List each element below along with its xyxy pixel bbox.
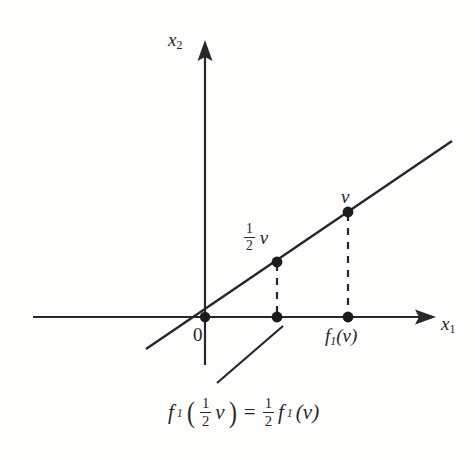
point-v [343, 207, 354, 218]
point-origin [200, 312, 210, 322]
equation-lhs-function: f [168, 402, 174, 423]
point-projection-half-v [272, 312, 283, 323]
equation-lhs-vector: v [215, 402, 224, 423]
leader-line-group [217, 326, 283, 383]
point-label-v: v [341, 187, 349, 206]
open-paren: ( [187, 397, 195, 427]
equation-rhs-function: f [278, 402, 284, 423]
point-label-half-v: 1 2 v [243, 222, 268, 253]
fraction-one-half-lhs: 1 2 [200, 396, 211, 429]
figure-canvas: x2 x1 0 v 1 2 v f1(v) f1 ( 1 2 v ) = 1 2… [0, 0, 475, 460]
point-half-v [272, 257, 283, 268]
equation-lhs-subscript: 1 [177, 407, 183, 419]
fraction-one-half-rhs: 1 2 [263, 396, 274, 429]
close-paren: ) [229, 397, 237, 427]
diagram-svg [0, 0, 475, 460]
fraction-one-half: 1 2 [244, 222, 255, 253]
equation-rhs-subscript: 1 [287, 407, 293, 419]
y-axis-label: x2 [168, 30, 182, 51]
x-axis-label: x1 [441, 314, 455, 335]
equation-caption: f1 ( 1 2 v ) = 1 2 f1(v) [168, 396, 319, 429]
dashed-projection-group [277, 214, 348, 315]
vector-v-glyph: v [260, 228, 268, 247]
x-axis-point-label-f1v: f1(v) [325, 326, 357, 347]
point-projection-v [343, 312, 354, 323]
origin-label: 0 [193, 325, 203, 344]
equation-leader-line [217, 326, 283, 383]
axes-group [33, 40, 436, 365]
equals-sign: = [244, 402, 256, 423]
equation-rhs-argument: (v) [296, 402, 319, 423]
